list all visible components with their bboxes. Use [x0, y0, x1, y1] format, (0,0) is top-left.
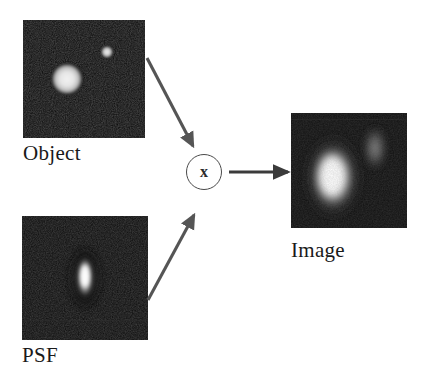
panel-psf [22, 216, 148, 340]
panel-label-image: Image [291, 240, 345, 261]
panel-object [23, 20, 145, 138]
convolution-symbol: x [200, 164, 208, 180]
object-panel-content [23, 20, 145, 138]
image-formation-figure: Object [0, 0, 422, 381]
convolution-operator-circle: x [186, 154, 222, 190]
image-panel-content [291, 113, 407, 228]
panel-label-psf: PSF [22, 345, 58, 366]
psf-panel-content [22, 216, 148, 340]
arrow-psf-to-operator [148, 215, 194, 300]
arrow-object-to-operator [147, 58, 193, 146]
panel-label-object: Object [23, 143, 81, 164]
panel-image [291, 113, 407, 228]
